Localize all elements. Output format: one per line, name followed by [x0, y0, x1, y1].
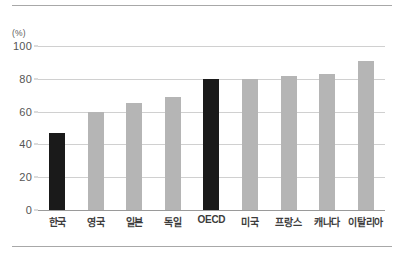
x-label-프랑스: 프랑스 — [269, 214, 308, 229]
y-tick-label-20: 20 — [19, 171, 32, 183]
bottom-divider-rule — [12, 246, 392, 247]
bar-slot — [38, 46, 77, 210]
bars-group — [38, 46, 385, 210]
bar-프랑스 — [281, 76, 297, 210]
y-axis-unit-label: (%) — [12, 28, 26, 38]
x-label-일본: 일본 — [115, 214, 154, 229]
bar-이탈리아 — [358, 61, 374, 210]
y-tick-label-100: 100 — [13, 40, 32, 52]
gridline-0 — [38, 210, 385, 211]
top-divider-rule — [12, 5, 392, 6]
bar-캐나다 — [319, 74, 335, 210]
x-label-미국: 미국 — [231, 214, 270, 229]
bar-일본 — [126, 103, 142, 210]
bar-미국 — [242, 79, 258, 210]
bar-slot — [231, 46, 270, 210]
plot-area: 020406080100 — [38, 46, 385, 210]
bar-slot — [154, 46, 193, 210]
y-tick-label-40: 40 — [19, 138, 32, 150]
y-tick-label-0: 0 — [26, 204, 32, 216]
bar-slot — [115, 46, 154, 210]
x-label-독일: 독일 — [154, 214, 193, 229]
bar-slot — [77, 46, 116, 210]
bar-독일 — [165, 97, 181, 210]
x-axis-category-labels: 한국영국일본독일OECD미국프랑스캐나다이탈리아 — [38, 214, 385, 229]
bar-영국 — [88, 112, 104, 210]
x-label-이탈리아: 이탈리아 — [346, 214, 385, 229]
x-label-캐나다: 캐나다 — [308, 214, 347, 229]
bar-OECD — [203, 79, 219, 210]
bar-chart-figure: (%) 020406080100 한국영국일본독일OECD미국프랑스캐나다이탈리… — [0, 0, 404, 255]
x-label-영국: 영국 — [77, 214, 116, 229]
bar-slot — [308, 46, 347, 210]
bar-한국 — [49, 133, 65, 210]
bar-slot — [192, 46, 231, 210]
y-tick-label-60: 60 — [19, 106, 32, 118]
x-label-한국: 한국 — [38, 214, 77, 229]
bar-slot — [269, 46, 308, 210]
x-label-OECD: OECD — [192, 214, 231, 229]
bar-slot — [346, 46, 385, 210]
y-tick-label-80: 80 — [19, 73, 32, 85]
